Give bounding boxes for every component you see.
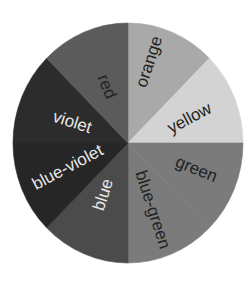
wheel-segments <box>13 23 243 263</box>
color-wheel: orangeyellowgreenblue-greenblueblue-viol… <box>0 0 251 286</box>
